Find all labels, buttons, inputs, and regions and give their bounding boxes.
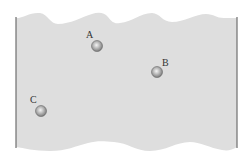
- label-b: B: [162, 57, 169, 68]
- label-a: A: [86, 29, 94, 40]
- fluid-diagram: A B C: [0, 0, 248, 166]
- fluid-region: [16, 13, 237, 151]
- ball-c-icon: [36, 106, 47, 117]
- label-c: C: [30, 94, 37, 105]
- ball-b-icon: [152, 67, 163, 78]
- ball-a-icon: [92, 41, 103, 52]
